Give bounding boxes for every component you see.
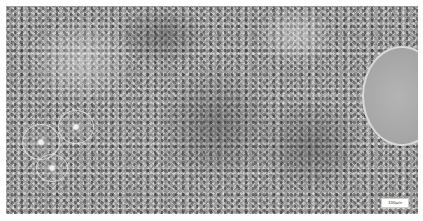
vessel-profile bbox=[58, 110, 94, 144]
dense-cell-region bbox=[156, 66, 276, 186]
dense-cell-region bbox=[256, 96, 366, 196]
vessel-profile bbox=[36, 154, 68, 182]
scale-bar-label: 100µm bbox=[388, 201, 402, 205]
micrograph-image bbox=[6, 6, 418, 214]
pale-region bbox=[256, 6, 336, 66]
pale-region bbox=[26, 16, 136, 106]
lymphoid-follicle bbox=[362, 46, 418, 146]
scale-bar: 100µm bbox=[381, 198, 409, 208]
